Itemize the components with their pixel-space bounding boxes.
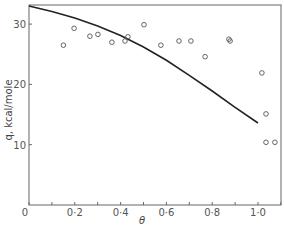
x-tick-label: 0·6	[158, 207, 174, 218]
y-tick-label: 30	[13, 19, 26, 30]
x-axis-label: θ	[139, 215, 145, 226]
x-tick-label: 0·8	[204, 207, 220, 218]
data-point	[96, 32, 101, 37]
data-point	[72, 26, 77, 31]
data-point	[88, 34, 93, 39]
y-tick-label: 10	[13, 140, 26, 151]
x-tick-label: 0·2	[67, 207, 83, 218]
chart: 00·20·40·60·81·0 102030 θ q, kcal/mole	[0, 0, 284, 228]
x-tick-label: 1·0	[250, 207, 266, 218]
data-point	[123, 39, 128, 44]
x-tick-label: 0	[22, 207, 28, 218]
data-point	[273, 140, 278, 145]
data-point	[142, 22, 147, 27]
data-point	[264, 112, 269, 117]
theoretical-curve	[29, 6, 258, 123]
data-point	[189, 39, 194, 44]
y-tick-label: 20	[13, 79, 26, 90]
data-point	[203, 54, 208, 59]
data-point	[110, 40, 115, 45]
plot-frame	[29, 5, 281, 205]
x-tick-label: 0·4	[113, 207, 129, 218]
data-point	[264, 140, 269, 145]
data-point	[260, 71, 265, 76]
data-point	[159, 43, 164, 48]
x-axis-ticks: 00·20·40·60·81·0	[22, 202, 281, 218]
data-point	[61, 43, 66, 48]
y-axis-label: q, kcal/mole	[3, 79, 14, 140]
data-point	[177, 39, 182, 44]
data-points	[61, 22, 277, 144]
